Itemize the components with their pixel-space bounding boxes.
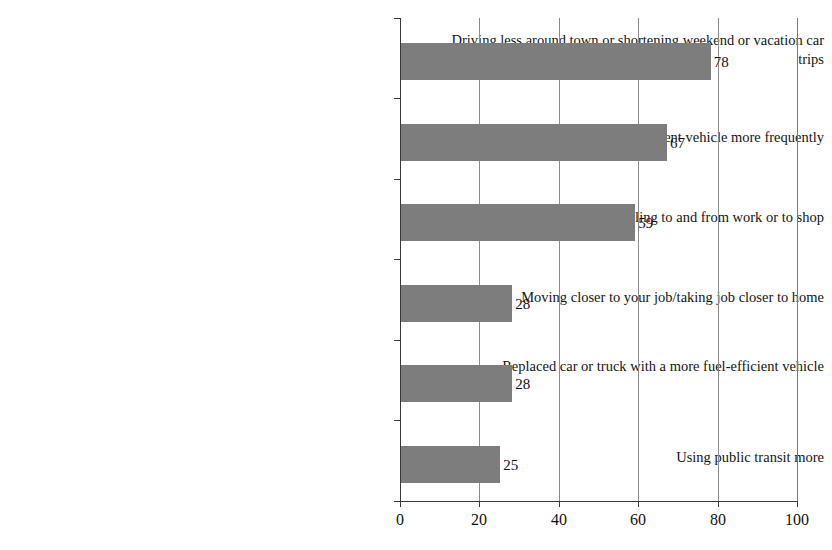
bar-value-label: 67 — [670, 135, 685, 152]
x-axis-tick — [638, 501, 639, 507]
x-axis-tick-label: 100 — [767, 511, 827, 529]
y-axis-tick — [394, 340, 400, 341]
bar-series-0 — [401, 43, 711, 80]
plot-area: 78 67 59 28 28 25 0 20 40 60 80 100 — [400, 18, 797, 501]
bar-series-2 — [401, 204, 635, 241]
y-axis-line — [400, 18, 401, 501]
bar-chart: Driving less around town or shortening w… — [0, 0, 832, 550]
y-axis-tick — [394, 179, 400, 180]
gridline-40 — [559, 18, 560, 501]
gridline-80 — [718, 18, 719, 501]
gridline-20 — [479, 18, 480, 501]
y-axis-tick — [394, 420, 400, 421]
gridline-60 — [638, 18, 639, 501]
bar-value-label: 78 — [714, 54, 729, 71]
x-axis-tick — [559, 501, 560, 507]
x-axis-tick-label: 80 — [688, 511, 748, 529]
gridline-100 — [797, 18, 798, 501]
y-axis-tick — [394, 259, 400, 260]
y-axis-tick — [394, 98, 400, 99]
x-axis-tick-label: 60 — [608, 511, 668, 529]
bar-series-4 — [401, 365, 512, 402]
x-axis-tick — [400, 501, 401, 507]
x-axis-tick-label: 0 — [370, 511, 430, 529]
x-axis-tick-label: 20 — [449, 511, 509, 529]
y-axis-tick — [394, 18, 400, 19]
bar-series-5 — [401, 446, 500, 483]
bar-value-label: 28 — [515, 296, 530, 313]
x-axis-line — [400, 501, 798, 502]
x-axis-tick-label: 40 — [529, 511, 589, 529]
x-axis-tick — [797, 501, 798, 507]
bar-value-label: 25 — [503, 457, 518, 474]
bar-series-3 — [401, 285, 512, 322]
x-axis-tick — [718, 501, 719, 507]
bar-value-label: 59 — [638, 215, 653, 232]
x-axis-tick — [479, 501, 480, 507]
bar-series-1 — [401, 124, 667, 161]
bar-value-label: 28 — [515, 376, 530, 393]
